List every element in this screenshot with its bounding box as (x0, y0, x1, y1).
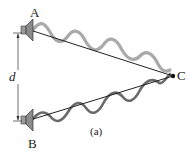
wave-from-b (32, 74, 170, 121)
path-b-to-c (30, 76, 173, 120)
label-d: d (9, 70, 16, 83)
caption: (a) (90, 126, 102, 137)
point-c-marker (171, 74, 175, 78)
label-a: A (30, 6, 39, 19)
label-c: C (177, 69, 186, 82)
wave-from-a (32, 24, 170, 72)
label-b: B (28, 137, 37, 150)
speaker-b-icon (21, 109, 33, 131)
speaker-a-icon (21, 19, 33, 41)
